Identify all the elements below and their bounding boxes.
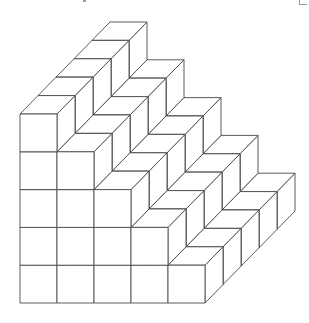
cube-front-face — [57, 265, 94, 303]
cube-staircase-diagram — [0, 0, 309, 323]
cube-front-face — [57, 152, 94, 190]
cube-front-face — [168, 265, 205, 303]
cube-front-face — [94, 265, 131, 303]
cube-front-face — [94, 227, 131, 265]
cube-front-face — [20, 190, 57, 228]
cube-front-face — [131, 265, 168, 303]
cube-front-face — [20, 114, 57, 152]
cube-front-face — [20, 227, 57, 265]
cube-front-face — [57, 190, 94, 228]
cube-front-face — [20, 152, 57, 190]
cube-front-face — [57, 227, 94, 265]
cube-front-face — [20, 265, 57, 303]
cube-front-face — [94, 190, 131, 228]
cube-front-face — [131, 227, 168, 265]
